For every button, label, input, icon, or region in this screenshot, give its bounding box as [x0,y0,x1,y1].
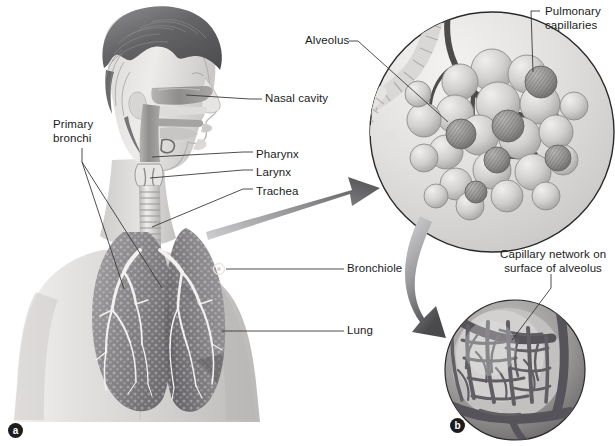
leader-larynx [150,170,253,178]
torso-illustration [14,6,260,422]
label-bronchiole: Bronchiole [347,262,402,276]
label-trachea: Trachea [256,185,298,199]
label-primary-bronchi: Primary bronchi [53,118,93,145]
label-larynx: Larynx [256,166,291,180]
panel-tag-b: b [450,418,465,433]
illustration-layer [0,0,615,446]
label-nasal-cavity: Nasal cavity [265,92,328,106]
label-alveolus: Alveolus [305,34,349,48]
alveolus-magnification-circle [360,12,614,252]
panel-tag-a: a [8,423,23,438]
label-pulmonary-capillaries: Pulmonary capillaries [545,5,601,32]
pharynx-cavity [140,104,160,162]
label-pharynx: Pharynx [256,148,299,162]
respiratory-system-figure: Nasal cavity Pharynx Larynx Trachea Prim… [0,0,615,446]
label-lung: Lung [347,324,373,338]
larynx-shape [135,164,163,186]
label-capillary-network: Capillary network on surface of alveolus [500,248,606,275]
alveolus-surface-circle [445,300,585,444]
